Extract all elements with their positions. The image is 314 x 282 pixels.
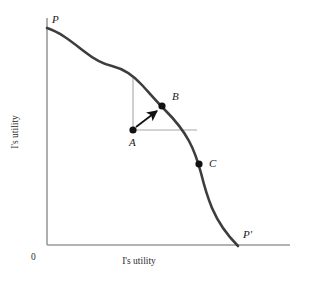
x-axis-label: I's utility bbox=[122, 256, 156, 266]
label-p: P bbox=[51, 13, 59, 25]
label-b: B bbox=[172, 90, 179, 102]
frontier-curve bbox=[47, 28, 238, 246]
improvement-arrow bbox=[136, 111, 157, 127]
point-a bbox=[129, 126, 136, 133]
utility-possibility-frontier-figure: P P' A B C 0 I's utility I's utility bbox=[0, 0, 314, 282]
origin-label: 0 bbox=[31, 252, 36, 262]
point-c bbox=[195, 160, 202, 167]
y-axis-label: I's utility bbox=[10, 115, 20, 149]
label-p-prime: P' bbox=[242, 228, 253, 240]
point-b bbox=[158, 102, 165, 109]
label-c: C bbox=[209, 157, 217, 169]
label-a: A bbox=[128, 136, 136, 148]
